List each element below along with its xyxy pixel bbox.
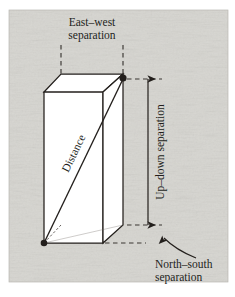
distance-diagram: East–west separation Up–down separation … xyxy=(0,0,235,297)
figure-container: East–west separation Up–down separation … xyxy=(0,0,235,297)
endpoint-dot-upper xyxy=(119,74,126,81)
label-up-down-separation: Up–down separation xyxy=(154,104,167,200)
label-east-west-line1: East–west xyxy=(69,16,116,28)
label-east-west-line2: separation xyxy=(68,29,116,42)
label-north-south-line1: North–south xyxy=(155,258,213,270)
box-front-face xyxy=(44,92,103,243)
label-north-south-line2: separation xyxy=(155,271,203,284)
endpoint-dot-lower xyxy=(41,240,48,247)
